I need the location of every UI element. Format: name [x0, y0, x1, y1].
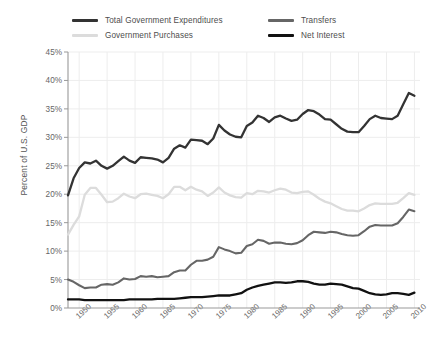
series-line-total-government-expenditures: [68, 93, 414, 195]
chart-container: Total Government Expenditures Government…: [0, 0, 428, 346]
plot-area: [0, 0, 428, 346]
series-line-net-interest: [68, 281, 414, 300]
series-line-transfers: [68, 210, 414, 289]
